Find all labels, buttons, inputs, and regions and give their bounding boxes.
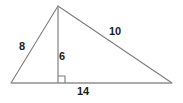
label-altitude: 6 (59, 51, 65, 62)
label-side-right: 10 (109, 26, 121, 37)
right-slant-side (58, 6, 172, 83)
label-base: 14 (77, 86, 89, 97)
label-side-left: 8 (19, 41, 25, 52)
triangle-diagram-svg (0, 0, 183, 103)
geometry-figure: 8 6 10 14 (0, 0, 183, 103)
right-angle-marker-icon (58, 76, 65, 83)
